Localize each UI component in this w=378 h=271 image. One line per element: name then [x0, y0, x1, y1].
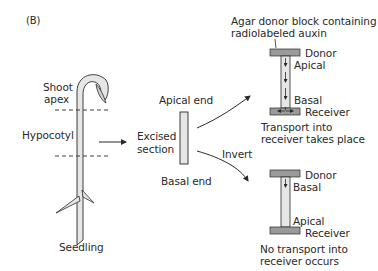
excised-section: [180, 112, 188, 164]
invert-label: Invert: [222, 148, 252, 160]
donor-block: [270, 49, 300, 56]
agar-label-line2: radiolabeled auxin: [231, 27, 327, 39]
result-top-line2: receiver takes place: [261, 133, 365, 145]
receiver-block: [270, 108, 300, 115]
excised-label-line1: Excised: [137, 130, 176, 142]
agar-label-line1: Agar donor block containing: [231, 15, 376, 27]
donor-block: [270, 170, 300, 177]
receiver-label: Receiver: [305, 227, 350, 239]
donor-label: Donor: [305, 47, 336, 59]
receiver-label: Receiver: [305, 106, 350, 118]
result-bottom-line2: receiver occurs: [260, 255, 339, 267]
seedling-label: Seedling: [59, 241, 104, 253]
donor-label: Donor: [305, 169, 336, 181]
shoot-apex-label-line1: Shoot: [43, 81, 73, 93]
panel-label: (B): [26, 15, 40, 27]
hypocotyl-label: Hypocotyl: [22, 129, 74, 141]
result-bottom-line1: No transport into: [260, 243, 348, 255]
apical-end-label: Apical end: [159, 94, 213, 106]
receiver-block: [270, 227, 300, 234]
basal-label: Basal: [293, 181, 321, 193]
basal-label: Basal: [294, 94, 322, 106]
result-top-line1: Transport into: [261, 121, 332, 133]
excised-label-line2: section: [137, 143, 174, 155]
apical-label: Apical: [293, 215, 324, 227]
basal-end-label: Basal end: [161, 175, 212, 187]
apical-label: Apical: [294, 59, 325, 71]
shoot-apex-label-line2: apex: [44, 93, 69, 105]
